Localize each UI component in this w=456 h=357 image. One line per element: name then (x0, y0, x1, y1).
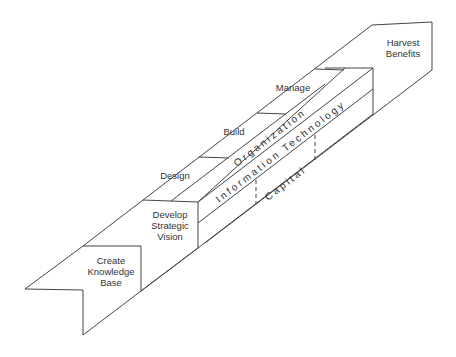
svg-text:Base: Base (100, 277, 122, 288)
svg-text:Create: Create (97, 255, 126, 266)
svg-text:Benefits: Benefits (386, 48, 421, 59)
svg-text:Vision: Vision (157, 231, 183, 242)
step-manage-label: Manage (276, 82, 310, 93)
svg-text:Develop: Develop (153, 209, 188, 220)
step-design-label: Design (160, 170, 190, 181)
develop-strategic-vision-label: Develop Strategic Vision (151, 209, 189, 242)
layer-capital-label: Capital (263, 164, 309, 203)
svg-text:Harvest: Harvest (387, 37, 420, 48)
step-build-label: Build (223, 126, 244, 137)
harvest-benefits-label: Harvest Benefits (386, 37, 421, 59)
pathway-rails (141, 25, 432, 291)
strategy-pathway-diagram: Create Knowledge Base Develop Strategic … (0, 0, 456, 357)
svg-text:Strategic: Strategic (151, 220, 189, 231)
create-knowledge-base-label: Create Knowledge Base (87, 255, 134, 288)
svg-text:Knowledge: Knowledge (87, 266, 134, 277)
